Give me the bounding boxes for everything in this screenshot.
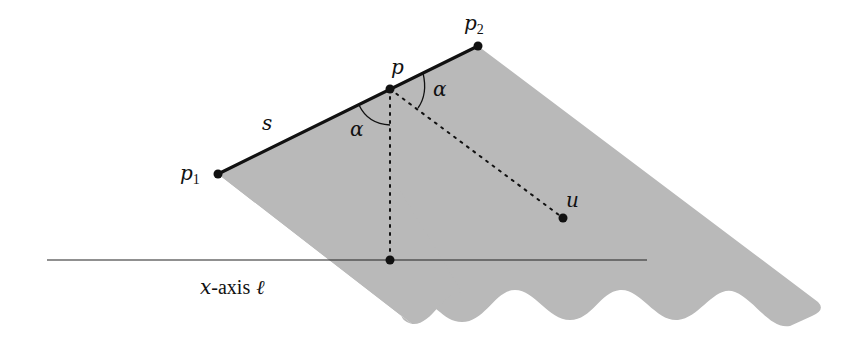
label-alpha-right: α <box>433 77 447 101</box>
point-p <box>386 85 395 94</box>
label-u: u <box>566 188 579 212</box>
point-u <box>559 214 568 223</box>
geometry-figure: p1 p p2 u s α α x-axisℓ <box>0 0 865 344</box>
point-foot <box>386 256 395 265</box>
label-p1: p1 <box>180 161 200 187</box>
label-p2: p2 <box>464 11 484 37</box>
point-p1 <box>214 170 223 179</box>
point-p2 <box>474 42 483 51</box>
label-s: s <box>262 111 272 135</box>
label-alpha-left: α <box>350 117 364 141</box>
label-p: p <box>391 55 404 79</box>
label-x-axis: x-axisℓ <box>200 275 265 299</box>
